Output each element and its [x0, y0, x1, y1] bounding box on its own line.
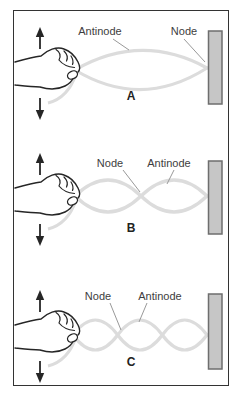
panel-c-letter: C: [127, 356, 136, 368]
panel-a: [15, 27, 222, 120]
panel-c-wave-phase2: [73, 320, 207, 350]
panel-c-antinode-label: Antinode: [138, 290, 181, 302]
panel-a-antinode-label: Antinode: [78, 25, 121, 37]
panel-c-wave-phase1: [73, 320, 207, 350]
panel-a-shaker: [15, 27, 80, 120]
panel-c: [15, 290, 222, 383]
panel-b-antinode-leader: [167, 170, 174, 184]
panel-a-letter: A: [127, 90, 136, 102]
panel-a-antinode-leader: [113, 39, 129, 50]
panel-b-node-label: Node: [97, 157, 123, 169]
standing-waves-svg: [0, 0, 242, 402]
panel-a-wave-upper: [75, 50, 207, 70]
panel-c-wall: [209, 294, 223, 369]
panel-b-wall: [209, 161, 223, 234]
panel-c-node-label: Node: [85, 290, 111, 302]
panel-b-wave-phase2: [75, 180, 207, 212]
figure-standing-waves: Antinode Node A Node Antinode B Node Ant…: [0, 0, 242, 402]
panel-b-letter: B: [127, 222, 136, 234]
panel-a-wall: [209, 31, 223, 104]
panel-a-wave-lower: [75, 68, 207, 90]
panel-c-shaker: [15, 290, 80, 383]
panel-b-shaker: [15, 153, 80, 246]
panel-b-antinode-label: Antinode: [147, 157, 190, 169]
panel-a-node-label: Node: [171, 25, 197, 37]
